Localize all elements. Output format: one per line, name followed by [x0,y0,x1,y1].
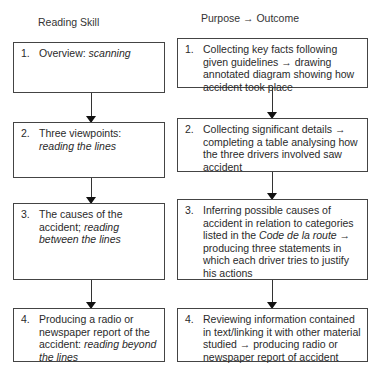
skill-text: Three viewpoints: reading the lines [39,127,159,152]
skill-box-3: 3. The causes of the accident; reading b… [13,203,165,280]
purpose-box-4: 4. Reviewing information contained in te… [177,308,368,362]
purpose-text: Inferring possible causes of accident in… [203,204,362,279]
step-number: 2. [185,123,194,136]
purpose-text: Collecting key facts following given gui… [203,43,362,93]
heading-reading-skill: Reading Skill [38,16,99,28]
step-number: 3. [21,208,30,221]
skill-text: Producing a radio or newspaper report of… [39,313,159,363]
step-number: 2. [21,127,30,140]
skill-box-1: 1. Overview: scanning [13,42,165,93]
arrow-down-icon [272,172,273,199]
arrow-down-icon [91,178,92,203]
arrow-down-icon [91,93,92,122]
skill-text: Overview: scanning [39,47,159,60]
skill-box-2: 2. Three viewpoints: reading the lines [13,122,165,178]
step-number: 4. [21,313,30,326]
purpose-text: Collecting significant details → complet… [203,123,362,173]
heading-purpose-outcome: Purpose → Outcome [201,12,299,24]
step-number: 3. [185,204,194,217]
skill-box-4: 4. Producing a radio or newspaper report… [13,308,165,362]
purpose-box-3: 3. Inferring possible causes of accident… [177,199,368,280]
step-number: 4. [185,313,194,326]
purpose-box-1: 1. Collecting key facts following given … [177,38,368,88]
arrow-down-icon [91,280,92,308]
arrow-down-icon [272,280,273,308]
step-number: 1. [185,43,194,56]
purpose-box-2: 2. Collecting significant details → comp… [177,118,368,172]
step-number: 1. [21,47,30,60]
purpose-text: Reviewing information contained in text/… [203,313,362,363]
arrow-down-icon [272,88,273,118]
skill-text: The causes of the accident; reading betw… [39,208,159,246]
